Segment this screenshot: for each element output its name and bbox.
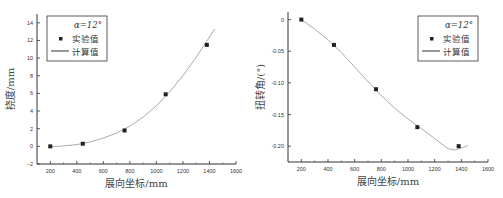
x-tick-label: 800 [125,168,134,174]
x-tick-label: 1600 [230,168,242,174]
experimental-point [205,43,209,47]
legend-title: α=12° [445,20,473,30]
x-tick-label: 1200 [177,168,189,174]
y-tick-label: 2 [30,126,33,132]
y-tick-label: -0.10 [271,80,284,86]
legend-entry-experimental: 实验值 [72,34,99,44]
y-tick-label: -0.15 [271,112,284,118]
x-tick-label: 1400 [203,168,215,174]
y-tick-label: 0 [30,143,33,149]
legend-entry-calculated: 计算值 [443,47,470,57]
experimental-point [457,144,461,148]
y-tick-label: 4 [30,108,33,114]
legend-entry-experimental: 实验值 [443,34,470,44]
x-tick-label: 1000 [402,166,414,172]
experimental-point [164,92,168,96]
x-tick-label: 1400 [455,166,467,172]
experimental-point [332,43,336,47]
experimental-point [299,18,303,22]
y-tick-label: 12 [27,37,33,43]
torsion-angle-chart: 20040060080010001200140016000-0.05-0.10-… [250,0,503,198]
legend-marker-icon [59,37,63,41]
x-axis-label: 展向坐标/mm [105,177,168,189]
x-axis-label: 展向坐标/mm [357,175,420,187]
y-tick-label: 10 [27,55,33,61]
experimental-point [48,144,52,148]
legend-title: α=12° [74,20,102,30]
legend-marker-icon [430,37,434,41]
y-axis-label: 扭转角/(°) [254,64,266,110]
y-axis-label: 挠度/mm [4,67,16,110]
x-tick-label: 600 [99,168,108,174]
experimental-point [415,125,419,129]
legend-entry-calculated: 计算值 [72,47,99,57]
y-tick-label: 8 [30,73,33,79]
y-tick-label: 14 [27,20,33,26]
x-tick-label: 400 [323,166,332,172]
x-tick-label: 1000 [150,168,162,174]
y-tick-label: 6 [30,90,33,96]
deflection-chart: 2004006008001000120014001600−20246810121… [0,0,250,198]
x-tick-label: 1200 [429,166,441,172]
x-tick-label: 200 [297,166,306,172]
y-tick-label: −2 [27,161,33,167]
x-tick-label: 1600 [482,166,494,172]
x-tick-label: 800 [377,166,386,172]
experimental-point [374,87,378,91]
experimental-point [123,128,127,132]
y-tick-label: -0.05 [271,48,284,54]
y-tick-label: 0 [281,17,284,23]
y-tick-label: -0.20 [271,143,284,149]
experimental-point [81,142,85,146]
x-tick-label: 600 [350,166,359,172]
x-tick-label: 400 [72,168,81,174]
x-tick-label: 200 [46,168,55,174]
